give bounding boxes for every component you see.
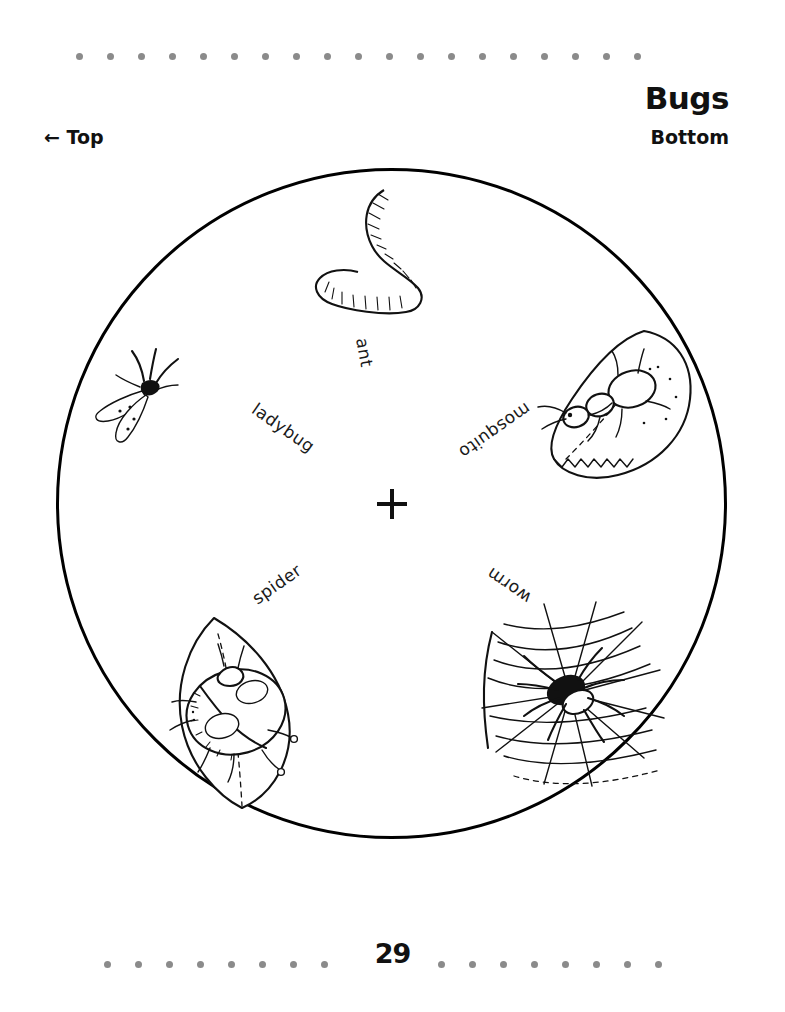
rule-dot [510, 53, 517, 60]
page-title: Bugs [645, 80, 729, 116]
rule-dot [324, 53, 331, 60]
rule-dot [500, 961, 507, 968]
rule-dot [541, 53, 548, 60]
page-number: 29 [0, 938, 785, 969]
rule-dot [655, 961, 662, 968]
mosquito-illustration [84, 343, 204, 453]
rule-dot [355, 53, 362, 60]
dotted-rule-top [76, 52, 641, 60]
rule-dot [231, 53, 238, 60]
worksheet-page: Bugs Bottom ← Top [0, 0, 785, 1012]
rule-dot [438, 961, 445, 968]
rule-dot [138, 53, 145, 60]
rule-dot [448, 53, 455, 60]
ladybug-on-leaf-illustration [156, 608, 326, 823]
rule-dot [562, 961, 569, 968]
center-crosshair-icon [377, 489, 407, 519]
rule-dot [293, 53, 300, 60]
rule-dot [572, 53, 579, 60]
earthworm-illustration [306, 168, 486, 318]
ant-on-leaf-illustration [526, 323, 706, 503]
rule-dot [479, 53, 486, 60]
rule-dot [386, 53, 393, 60]
rule-dot [624, 961, 631, 968]
spider-on-web-illustration [474, 598, 674, 798]
rule-dot [417, 53, 424, 60]
rule-dot [469, 961, 476, 968]
rule-dot [603, 53, 610, 60]
rule-dot [200, 53, 207, 60]
rule-dot [107, 53, 114, 60]
rule-dot [531, 961, 538, 968]
rule-dot [169, 53, 176, 60]
rule-dot [76, 53, 83, 60]
layer-label: Bottom [650, 126, 729, 148]
dotted-rule-bottom-right [438, 960, 662, 968]
rule-dot [262, 53, 269, 60]
rule-dot [593, 961, 600, 968]
bug-wheel: ladybug mosquito spider worm ant [56, 168, 727, 839]
top-orientation-marker: ← Top [44, 126, 104, 148]
rule-dot [634, 53, 641, 60]
